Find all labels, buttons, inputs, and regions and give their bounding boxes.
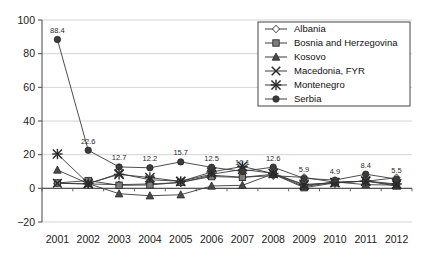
legend-box [258, 22, 410, 106]
data-point-marker [270, 164, 276, 170]
data-point-marker [83, 178, 93, 188]
data-point-marker [332, 177, 338, 183]
data-point-label: 10.1 [235, 158, 250, 167]
data-point-label: 5.5 [391, 166, 401, 175]
xtick-labels-group: 2001200220032004200520062007200820092010… [46, 233, 409, 245]
data-point-label: 4.9 [330, 167, 340, 176]
data-point-marker [147, 165, 153, 171]
x-axis-tick-label: 2002 [77, 233, 101, 245]
x-axis-tick-label: 2009 [292, 233, 316, 245]
data-point-marker [273, 40, 279, 46]
data-point-label: 12.6 [266, 154, 281, 163]
legend-label: Montenegro [294, 79, 345, 90]
x-axis-tick-label: 2010 [323, 233, 347, 245]
ytick-labels-group: 100806040200−20 [17, 14, 35, 228]
data-point-marker [54, 36, 60, 42]
data-point-marker [273, 96, 279, 102]
data-point-marker [54, 166, 62, 173]
y-axis-tick-label: −20 [17, 216, 35, 228]
line-chart: 100806040200−20 200120022003200420052006… [0, 0, 425, 258]
y-axis-tick-label: 80 [23, 47, 35, 59]
data-point-marker [176, 176, 186, 186]
legend-label: Kosovo [294, 51, 326, 62]
data-point-marker [393, 176, 399, 182]
series-line [57, 170, 396, 196]
x-axis-tick-label: 2004 [138, 233, 162, 245]
data-point-marker [114, 169, 124, 179]
legend-label: Serbia [294, 93, 322, 104]
data-point-label: 8.4 [361, 161, 371, 170]
data-point-marker [208, 164, 214, 170]
data-point-marker [363, 171, 369, 177]
data-point-marker [239, 181, 247, 188]
data-point-label: 22.6 [81, 137, 96, 146]
x-axis-tick-label: 2006 [200, 233, 224, 245]
x-axis-tick-label: 2008 [262, 233, 286, 245]
data-point-marker [116, 182, 122, 188]
data-point-marker [239, 174, 245, 180]
data-point-marker [116, 164, 122, 170]
data-point-marker [301, 175, 307, 181]
y-axis-tick-label: 0 [29, 182, 35, 194]
y-axis-tick-label: 40 [23, 115, 35, 127]
data-point-label: 12.7 [112, 153, 127, 162]
data-point-marker [239, 168, 245, 174]
y-axis-tick-label: 60 [23, 81, 35, 93]
x-axis-tick-label: 2001 [46, 233, 70, 245]
data-point-marker [52, 149, 62, 159]
x-axis-tick-label: 2003 [107, 233, 131, 245]
data-point-marker [178, 159, 184, 165]
y-axis-tick-label: 100 [17, 14, 35, 26]
x-axis-tick-label: 2007 [231, 233, 255, 245]
chart-canvas: 100806040200−20 200120022003200420052006… [0, 0, 425, 258]
x-axis-tick-label: 2012 [385, 233, 409, 245]
x-axis-tick-label: 2011 [354, 233, 377, 245]
data-point-marker [271, 80, 281, 90]
data-point-label: 88.4 [50, 26, 65, 35]
data-point-label: 5.9 [299, 165, 309, 174]
data-point-marker [145, 172, 155, 182]
legend: AlbaniaBosnia and HerzegovinaKosovoMaced… [258, 22, 410, 106]
legend-label: Macedonia, FYR [294, 65, 365, 76]
legend-label: Albania [294, 23, 326, 34]
data-point-label: 12.5 [204, 154, 219, 163]
legend-item-macedonia-fyr[interactable]: Macedonia, FYR [265, 65, 365, 76]
data-point-marker [85, 147, 91, 153]
y-axis-tick-label: 20 [23, 148, 35, 160]
legend-label: Bosnia and Herzegovina [294, 37, 398, 48]
data-point-label: 15.7 [173, 148, 188, 157]
data-point-label: 12.2 [143, 154, 158, 163]
x-axis-tick-label: 2005 [169, 233, 193, 245]
